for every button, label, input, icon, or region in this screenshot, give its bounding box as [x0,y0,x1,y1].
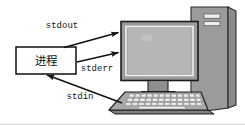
process-box: 进程 [16,47,76,74]
tower-side-face [228,7,236,108]
tower-drive-bay-1 [204,14,220,18]
monitor-stand-neck [148,81,168,92]
process-box-label: 进程 [35,54,58,68]
monitor-screen [128,28,192,74]
diagram-canvas: 进程 stdout stderr stdin [0,0,245,125]
stdout-label: stdout [46,21,78,31]
keyboard-spacebar [138,106,187,109]
stdout-arrow [64,33,119,48]
monitor-screen-glare [141,35,153,42]
stderr-label: stderr [81,64,113,74]
stdin-label: stdin [66,92,93,102]
diagram-figure: 进程 stdout stderr stdin [0,0,245,125]
computer-monitor [121,22,198,97]
computer-keyboard [109,92,214,114]
stderr-arrow [77,53,119,63]
tower-drive-bay-2 [204,22,220,26]
